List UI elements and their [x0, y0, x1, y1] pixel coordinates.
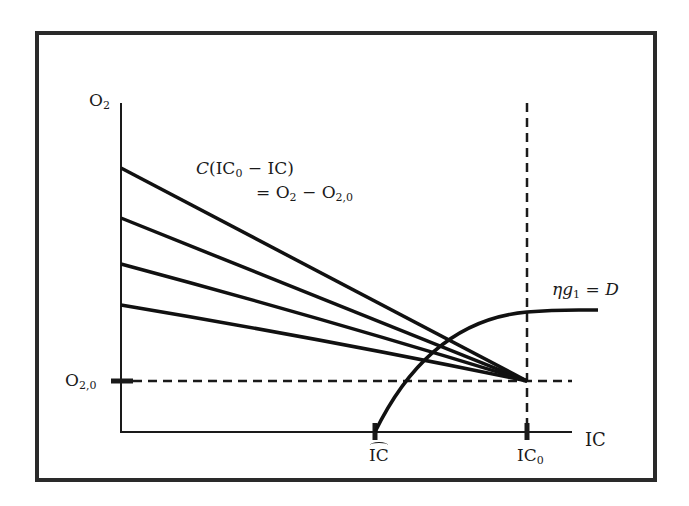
outer-frame: [37, 33, 655, 480]
cost-annotation-line2: = O2 − O2,0: [256, 184, 353, 201]
ic0-label: IC0: [517, 447, 544, 464]
diagram-canvas: O2 IC O2,0 IC IC0 C(IC0 − IC) = O2 − O2,…: [0, 0, 689, 506]
line-4: [121, 305, 527, 381]
curve-label: ηg1 = D: [552, 281, 619, 298]
line-2: [121, 218, 527, 381]
ic-hat-label: IC: [369, 447, 389, 464]
line-3: [121, 264, 527, 381]
y-axis-label: O2: [89, 92, 110, 109]
o2-0-label: O2,0: [65, 372, 96, 389]
axes: [121, 103, 572, 432]
x-axis-label: IC: [585, 431, 606, 449]
cost-annotation-line1: C(IC0 − IC): [196, 160, 294, 177]
